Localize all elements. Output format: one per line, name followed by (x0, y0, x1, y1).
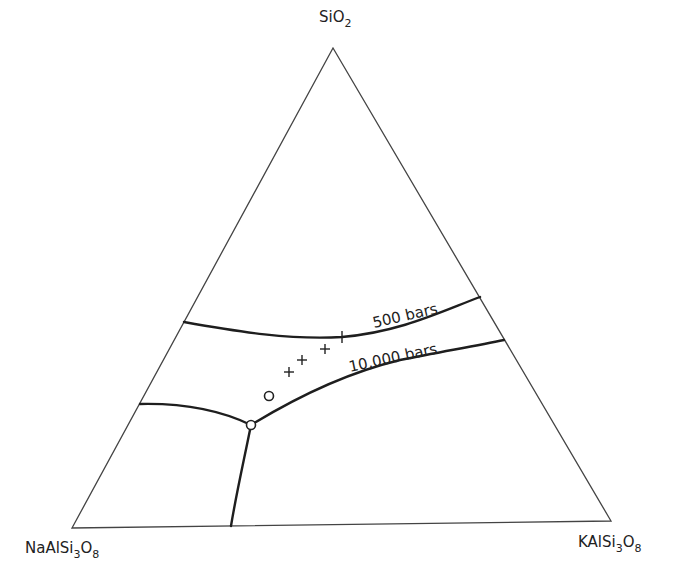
boundary-lower (231, 425, 251, 526)
boundary-left (140, 404, 251, 425)
data-open-circle (265, 392, 274, 401)
junction-point (247, 421, 256, 430)
data-cross (320, 344, 330, 354)
ternary-diagram: SiO2 NaAlSi3O8 KAlSi3O8 500 bars 10,000 … (0, 0, 676, 585)
vertex-label-sio2: SiO2 (319, 8, 352, 30)
vertex-label-albite: NaAlSi3O8 (25, 539, 99, 561)
data-cross (297, 355, 307, 365)
data-cross (284, 367, 294, 377)
curve-label-500-bars: 500 bars (371, 299, 440, 331)
curve-label-10000-bars: 10,000 bars (347, 340, 439, 376)
vertex-label-orthoclase: KAlSi3O8 (578, 533, 642, 555)
triangle-outline (72, 48, 611, 528)
